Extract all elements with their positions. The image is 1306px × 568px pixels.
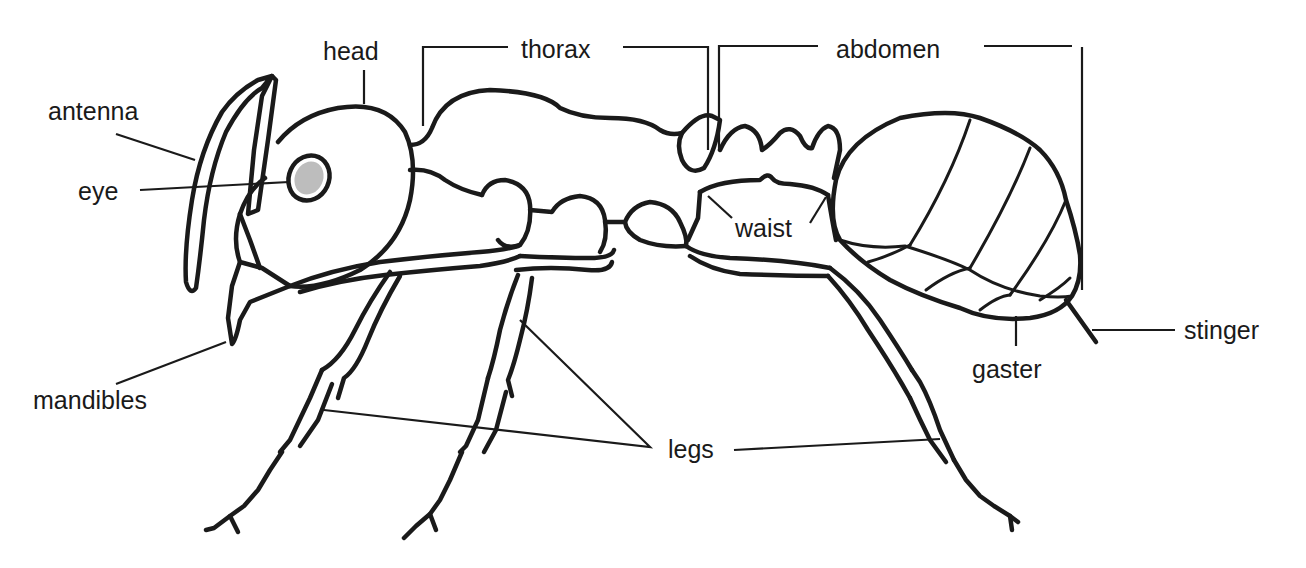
label-legs: legs [668, 435, 714, 463]
labels: head thorax abdomen antenna eye waist ma… [33, 35, 1259, 463]
mandibles-leader [116, 342, 226, 384]
label-stinger: stinger [1184, 316, 1259, 344]
front-leg [206, 246, 520, 532]
label-antenna: antenna [48, 97, 138, 125]
label-head: head [323, 37, 379, 65]
label-mandibles: mandibles [33, 386, 147, 414]
label-waist: waist [734, 214, 792, 242]
antenna-leader [116, 134, 195, 160]
thorax-shape [410, 90, 686, 252]
hind-leg [686, 246, 1018, 530]
abdomen-leader-left [719, 46, 818, 150]
ant-anatomy-diagram: head thorax abdomen antenna eye waist ma… [0, 0, 1306, 568]
legs-leader-hind [734, 439, 940, 450]
waist-leader-right [810, 197, 826, 223]
thorax-leader-left [423, 47, 508, 126]
label-abdomen: abdomen [836, 35, 940, 63]
middle-leg [404, 250, 614, 538]
leader-lines [116, 46, 1175, 450]
label-gaster: gaster [972, 355, 1041, 383]
label-thorax: thorax [521, 35, 591, 63]
label-eye: eye [78, 177, 118, 205]
ant-illustration [186, 76, 1096, 538]
waist-leader-left [708, 196, 732, 218]
eye-leader [140, 182, 289, 190]
